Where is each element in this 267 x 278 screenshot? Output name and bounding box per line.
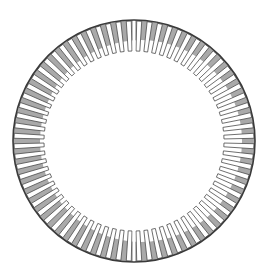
ring-svg bbox=[0, 0, 267, 278]
tooth bbox=[224, 133, 254, 139]
tooth bbox=[136, 231, 142, 261]
tooth bbox=[224, 143, 254, 149]
ring-diagram bbox=[0, 0, 267, 278]
tooth bbox=[136, 21, 142, 51]
tooth bbox=[126, 231, 132, 261]
shaded-band bbox=[13, 20, 255, 262]
tooth bbox=[126, 21, 132, 51]
